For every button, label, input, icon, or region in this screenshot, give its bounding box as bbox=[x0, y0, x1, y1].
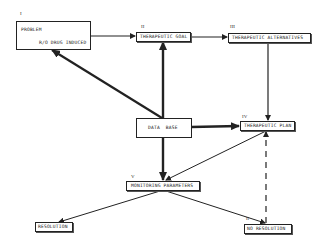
resolution-box[interactable]: RESOLUTION bbox=[35, 222, 73, 232]
therapeutic-goal-box[interactable]: THERAPEUTIC GOAL bbox=[136, 32, 191, 42]
edge-monitoring-to-resolution bbox=[59, 191, 160, 222]
therapeutic-plan-box[interactable]: THERAPEUTIC PLAN bbox=[240, 121, 295, 131]
goal-numeral: II bbox=[141, 24, 144, 29]
therapeutic-alternatives-box[interactable]: THERAPEUTIC ALTERNATIVES bbox=[228, 33, 311, 43]
monitoring-parameters-box[interactable]: MONITORING PARAMETERS bbox=[126, 181, 200, 191]
problem-title: PROBLEM bbox=[21, 27, 42, 32]
edge-monitoring-to-no-resolution bbox=[166, 191, 265, 223]
problem-subtitle: R/O DRUG INDUCED bbox=[39, 40, 86, 45]
monitoring-numeral: V bbox=[131, 174, 135, 179]
resolution-label: RESOLUTION bbox=[38, 224, 68, 229]
problem-box[interactable]: PROBLEM R/O DRUG INDUCED bbox=[16, 21, 91, 50]
problem-numeral: I bbox=[20, 11, 22, 16]
data-base-box[interactable]: DATA BASE bbox=[136, 118, 192, 138]
no-resolution-box[interactable]: NO RESOLUTION bbox=[244, 224, 292, 234]
edge-database-to-plan bbox=[191, 126, 239, 127]
no-resolution-label: NO RESOLUTION bbox=[247, 226, 286, 231]
plan-numeral: IV bbox=[242, 114, 247, 119]
therapeutic-goal-label: THERAPEUTIC GOAL bbox=[140, 34, 187, 39]
data-base-label: DATA BASE bbox=[148, 125, 178, 130]
therapeutic-plan-label: THERAPEUTIC PLAN bbox=[244, 123, 291, 128]
no-resolution-numeral: II bbox=[246, 216, 249, 221]
edge-plan-to-monitoring bbox=[166, 131, 266, 180]
edge-database-to-problem bbox=[52, 50, 162, 118]
monitoring-parameters-label: MONITORING PARAMETERS bbox=[131, 183, 193, 188]
therapeutic-alternatives-label: THERAPEUTIC ALTERNATIVES bbox=[232, 35, 303, 40]
alternatives-numeral: III bbox=[230, 24, 235, 29]
